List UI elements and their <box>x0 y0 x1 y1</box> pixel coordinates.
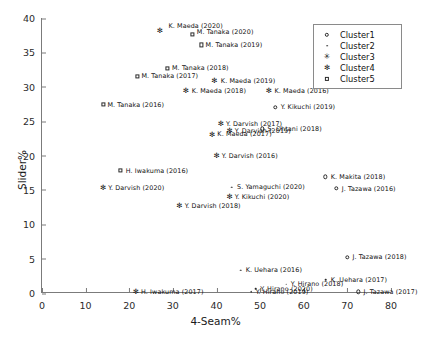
y-tick-label: 30 <box>23 81 42 92</box>
x-tick-label: 70 <box>341 292 353 311</box>
data-point-label: H. Iwakuma (2017) <box>141 288 203 296</box>
data-point-label: Y. Darvish (2018) <box>185 202 241 210</box>
data-point-label: M. Tanaka (2017) <box>141 72 198 80</box>
legend-marker <box>314 40 340 51</box>
legend-label: Cluster5 <box>340 74 375 84</box>
data-point: ✻ <box>208 130 217 139</box>
legend-item[interactable]: Cluster5 <box>314 73 401 84</box>
data-point <box>227 183 236 192</box>
y-tick-label: 25 <box>23 116 42 127</box>
data-point <box>188 30 197 39</box>
legend-marker <box>314 29 340 40</box>
marker-square-icon <box>135 74 139 78</box>
data-point-label: Y. Hirano (2019) <box>256 288 309 296</box>
legend-marker <box>314 73 340 84</box>
marker-star-filled-icon: ✻ <box>100 184 106 191</box>
data-point-label: J. Tazawa (2016) <box>342 185 396 193</box>
marker-circle-icon <box>334 186 338 190</box>
data-point-label: K. Maeda (2018) <box>192 87 246 95</box>
marker-circle-icon <box>273 105 277 109</box>
marker-dot-icon <box>231 186 233 188</box>
data-point-label: H. Iwakuma (2016) <box>126 167 188 175</box>
y-tick-label: 10 <box>23 219 42 230</box>
data-point <box>343 253 352 262</box>
legend-label: Cluster2 <box>340 41 375 51</box>
data-point: ✻ <box>155 26 164 35</box>
marker-star-filled-icon: ✻ <box>176 202 182 209</box>
data-point-label: Y. Darvish (2020) <box>108 184 164 192</box>
marker-square-icon <box>199 43 203 47</box>
marker-dot-icon <box>251 291 253 293</box>
data-point-label: J. Tazawa (2018) <box>353 253 407 261</box>
legend-item[interactable]: ✳Cluster3 <box>314 51 401 62</box>
data-point-label: K. Uehara (2016) <box>246 266 302 274</box>
data-point-label: M. Tanaka (2018) <box>172 64 229 72</box>
marker-star-filled-icon: ✻ <box>266 87 272 94</box>
data-point <box>236 266 245 275</box>
data-point <box>332 184 341 193</box>
x-axis-title: 4-Seam% <box>41 315 390 327</box>
data-point-label: M. Tanaka (2020) <box>197 28 254 36</box>
data-point: ✻ <box>175 201 184 210</box>
marker-circle-icon <box>323 175 327 179</box>
marker-star-filled-icon: ✻ <box>324 64 330 71</box>
scatter-plot-figure: Slider% 4-Seam% 0510152025303540 0102030… <box>0 0 436 339</box>
marker-star-filled-icon: ✻ <box>209 130 215 137</box>
legend-label: Cluster1 <box>340 30 375 40</box>
legend-item[interactable]: ✻Cluster4 <box>314 62 401 73</box>
data-point <box>116 166 125 175</box>
marker-star-filled-icon: ✻ <box>213 152 219 159</box>
marker-square-icon <box>166 66 170 70</box>
y-tick-label: 15 <box>23 184 42 195</box>
data-point: ✻ <box>216 119 225 128</box>
data-point <box>99 100 108 109</box>
data-point-label: M. Tanaka (2016) <box>107 101 164 109</box>
data-point: ✻ <box>264 86 273 95</box>
marker-circle-icon <box>325 32 329 36</box>
marker-circle-icon <box>356 289 360 293</box>
marker-dot-icon <box>326 45 328 47</box>
marker-star-filled-icon: ✻ <box>183 87 189 94</box>
marker-circle-icon <box>345 255 349 259</box>
marker-square-icon <box>118 169 122 173</box>
data-point-label: Y. Kikuchi (2020) <box>235 193 290 201</box>
y-tick-label: 20 <box>23 150 42 161</box>
data-point <box>163 64 172 73</box>
x-tick-label: 40 <box>210 292 222 311</box>
marker-dot-icon <box>240 270 242 272</box>
x-tick-label: 20 <box>123 292 135 311</box>
marker-star-open-icon: ✳ <box>324 53 331 61</box>
y-tick-label: 5 <box>29 253 42 264</box>
data-point <box>271 103 280 112</box>
marker-star-filled-icon: ✻ <box>218 120 224 127</box>
legend-item[interactable]: Cluster2 <box>314 40 401 51</box>
marker-square-icon <box>325 76 329 80</box>
data-point <box>197 40 206 49</box>
data-point-label: K. Maeda (2019) <box>221 77 275 85</box>
data-point-label: Y. Darvish (2016) <box>222 152 278 160</box>
y-tick-label: 35 <box>23 47 42 58</box>
legend-marker: ✳ <box>314 51 340 62</box>
legend-item[interactable]: Cluster1 <box>314 29 401 40</box>
marker-square-icon <box>190 32 194 36</box>
legend-label: Cluster4 <box>340 63 375 73</box>
data-point: ✻ <box>210 76 219 85</box>
marker-star-filled-icon: ✻ <box>211 77 217 84</box>
data-point <box>321 172 330 181</box>
data-point: ✻ <box>212 151 221 160</box>
marker-star-filled-icon: ✻ <box>226 193 232 200</box>
legend-marker: ✻ <box>314 62 340 73</box>
legend-label: Cluster3 <box>340 52 375 62</box>
data-point-label: K. Makita (2018) <box>331 173 385 181</box>
data-point: ✻ <box>99 183 108 192</box>
marker-star-filled-icon: ✻ <box>157 27 163 34</box>
data-point: ✻ <box>181 86 190 95</box>
data-point-label: Y. Kikuchi (2019) <box>281 103 336 111</box>
data-point-label: K. Maeda (2017) <box>217 130 271 138</box>
legend: Cluster1Cluster2✳Cluster3✻Cluster4Cluste… <box>313 24 402 89</box>
data-point-label: J. Tazawa (2017) <box>364 288 418 296</box>
data-point <box>354 287 363 296</box>
marker-square-icon <box>101 103 105 107</box>
data-point <box>133 72 142 81</box>
x-tick-label: 0 <box>39 292 45 311</box>
